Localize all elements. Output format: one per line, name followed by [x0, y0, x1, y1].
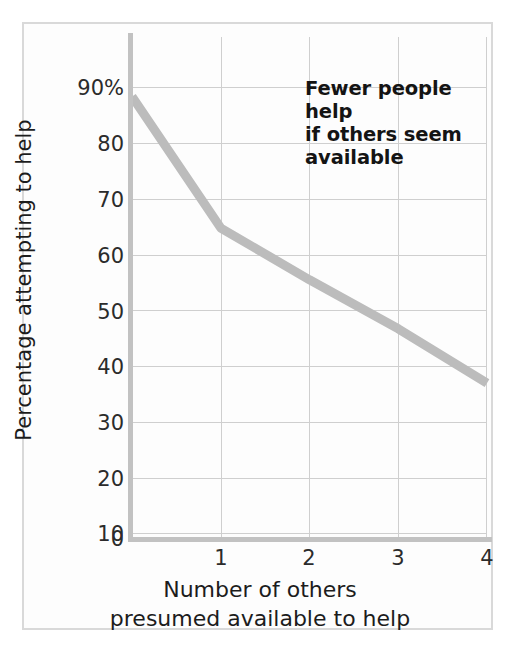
- annotation-line-2: if others seem: [305, 123, 485, 146]
- y-axis-title: Percentage attempting to help: [12, 70, 36, 490]
- x-axis-title: Number of others presumed available to h…: [60, 575, 460, 633]
- y-tick-label-50: 50: [97, 302, 124, 323]
- annotation-line-3: available: [305, 146, 485, 169]
- x-tick-label-4: 4: [467, 548, 507, 569]
- x-axis-title-line1: Number of others: [163, 577, 357, 602]
- y-tick-label-30: 30: [97, 413, 124, 434]
- y-tick-label-90: 90%: [77, 78, 124, 99]
- y-tick-label-40: 40: [97, 357, 124, 378]
- x-tick-label-3: 3: [378, 548, 418, 569]
- y-axis-line: [128, 33, 133, 542]
- chart-annotation: Fewer people help if others seem availab…: [305, 77, 485, 169]
- y-tick-label-70: 70: [97, 190, 124, 211]
- x-axis-line: [128, 537, 492, 542]
- figure-container: Percentage attempting to help 90% 80 70 …: [0, 0, 515, 645]
- y-tick-label-0: 0: [40, 529, 124, 550]
- x-tick-label-2: 2: [289, 548, 329, 569]
- y-tick-label-80: 80: [97, 134, 124, 155]
- annotation-line-1: Fewer people help: [305, 77, 485, 123]
- x-tick-label-1: 1: [201, 548, 241, 569]
- x-axis-title-line2: presumed available to help: [60, 604, 460, 633]
- y-tick-label-20: 20: [97, 469, 124, 490]
- y-tick-label-60: 60: [97, 246, 124, 267]
